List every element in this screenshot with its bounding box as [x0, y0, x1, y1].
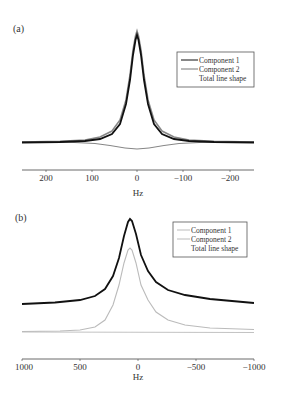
panel-b-tick-label: 1000	[15, 362, 34, 372]
panel-b-tick-label: −500	[187, 362, 206, 372]
panel-b-tick-label: 0	[136, 362, 141, 372]
panel-a-component-1-curve	[22, 35, 254, 143]
panel-a-legend-item-2: Component 2	[199, 65, 240, 74]
panel-a-legend: Component 1 Component 2 Total line shape	[177, 52, 254, 87]
panel-b: (b) Component 1 Component 2 Total line s…	[15, 212, 266, 382]
panel-a-tick-label: 100	[85, 173, 99, 183]
panel-a-legend-item-3: Total line shape	[199, 74, 247, 83]
panel-b-component-1-curve	[22, 248, 254, 332]
panel-a-x-axis: 200 100 0 −100 −200 Hz	[22, 170, 254, 198]
panel-b-legend-item-3: Total line shape	[191, 244, 239, 253]
panel-b-tick-label: 500	[73, 362, 87, 372]
panel-b-component-2-curve	[22, 332, 254, 333]
panel-a-tick-label: 200	[39, 173, 53, 183]
panel-b-x-axis: 1000 500 0 −500 −1000 Hz	[15, 359, 266, 382]
panel-b-legend-item-1: Component 1	[191, 226, 232, 235]
panel-b-legend-item-2: Component 2	[191, 235, 232, 244]
panel-a: (a) Component 1 Component 2 Total line s…	[13, 23, 254, 198]
panel-b-label: (b)	[15, 212, 27, 224]
panel-b-legend: Component 1 Component 2 Total line shape	[173, 222, 247, 257]
panel-b-x-label: Hz	[133, 372, 144, 382]
panel-a-x-label: Hz	[133, 188, 144, 198]
panel-a-component-2-curve	[22, 142, 254, 149]
panel-a-tick-label: 0	[135, 173, 140, 183]
figure: (a) Component 1 Component 2 Total line s…	[0, 0, 282, 403]
panel-b-tick-label: −1000	[242, 362, 266, 372]
panel-a-tick-label: −100	[174, 173, 193, 183]
panel-a-legend-item-1: Component 1	[199, 56, 240, 65]
panel-a-tick-label: −200	[221, 173, 240, 183]
panel-a-curves	[22, 31, 254, 149]
panel-a-label: (a)	[13, 23, 24, 35]
